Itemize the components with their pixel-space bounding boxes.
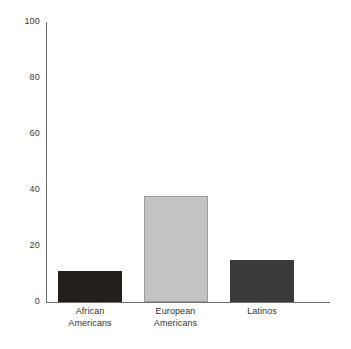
bar [230, 260, 294, 302]
y-axis-tick-0: 0 [8, 297, 40, 306]
x-axis-category-label: Latinos [217, 306, 307, 318]
y-axis-tick-60: 60 [8, 129, 40, 138]
y-axis-tick-40: 40 [8, 185, 40, 194]
y-axis-tick-label: 60 [8, 129, 40, 138]
y-axis-line [46, 22, 47, 303]
bar-chart: 100806040200 African AmericansEuropean A… [0, 0, 351, 349]
y-axis-tick-100: 100 [8, 17, 40, 26]
y-axis-tick-label: 100 [8, 17, 40, 26]
x-axis-category-label: African Americans [45, 306, 135, 329]
x-axis-category-label: European Americans [131, 306, 221, 329]
bar [144, 196, 208, 302]
y-axis-tick-20: 20 [8, 241, 40, 250]
y-axis-tick-label: 40 [8, 185, 40, 194]
y-axis-tick-label: 0 [8, 297, 40, 306]
y-axis-tick-80: 80 [8, 73, 40, 82]
bar [58, 271, 122, 302]
y-axis-tick-label: 80 [8, 73, 40, 82]
y-axis-tick-label: 20 [8, 241, 40, 250]
x-axis-line [46, 302, 330, 303]
